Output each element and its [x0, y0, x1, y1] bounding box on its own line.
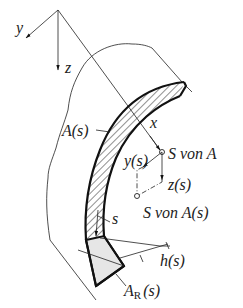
s-von-a-label: S von A [168, 145, 217, 162]
y-axis-label: y [14, 19, 24, 37]
y-axis-arrow [26, 10, 58, 38]
end-cross-section [78, 236, 160, 286]
curved-beam-diagram: y z s A(s) x y(s) [0, 0, 243, 308]
centroid-As-marker [135, 194, 140, 199]
x-axis-label: x [149, 114, 157, 131]
h-dimension: h(s) [120, 242, 185, 270]
s-von-as-label: S von A(s) [143, 204, 208, 222]
z-axis-label: z [64, 59, 72, 76]
hs-label: h(s) [160, 252, 185, 270]
ys-label: y(s) [122, 152, 148, 170]
s-label: s [112, 210, 118, 227]
local-axes: y(s) S von A z(s) S von A(s) [122, 145, 217, 222]
zs-label: z(s) [167, 176, 191, 194]
area-s-label: A(s) [61, 122, 89, 140]
ar-label: AR(s) [123, 282, 160, 301]
